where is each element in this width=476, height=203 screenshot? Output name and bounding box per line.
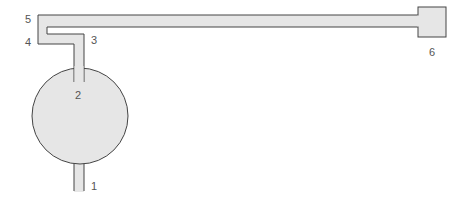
end-reservoir-box [418,7,446,37]
point-label-5: 5 [25,14,31,25]
point-label-1: 1 [91,181,97,192]
point-label-6: 6 [429,47,435,58]
point-label-2: 2 [75,90,81,101]
point-label-3: 3 [91,35,97,46]
point-label-4: 4 [25,37,31,48]
diagram-canvas: 1 2 3 4 5 6 [0,0,476,203]
pipe-schematic [0,0,476,203]
